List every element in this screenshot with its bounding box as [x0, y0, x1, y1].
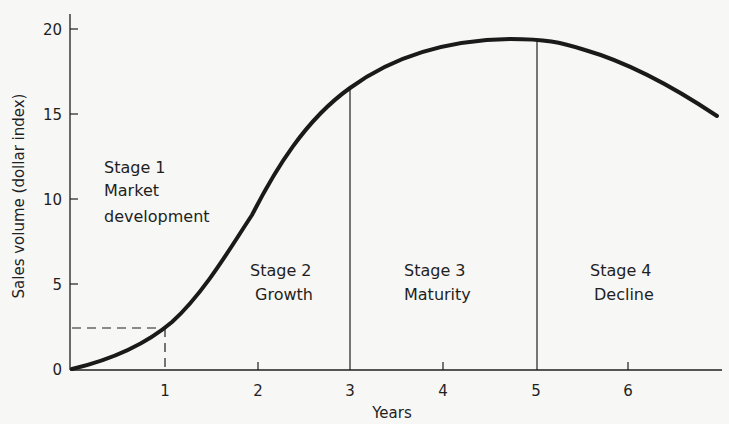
x-axis-title: Years: [371, 404, 412, 422]
svg-text:Stage 2: Stage 2: [250, 261, 312, 280]
x-tick-label: 6: [623, 382, 633, 400]
svg-text:Growth: Growth: [255, 285, 313, 304]
svg-text:Stage 4: Stage 4: [590, 261, 652, 280]
y-tick-label: 10: [43, 191, 62, 209]
svg-text:Maturity: Maturity: [404, 285, 471, 304]
x-tick-label: 5: [531, 382, 541, 400]
x-tick-label: 1: [160, 382, 170, 400]
svg-text:Stage 1: Stage 1: [104, 158, 166, 177]
y-axis-ticks: 0 5 10 15 20: [43, 21, 78, 379]
y-tick-label: 15: [43, 106, 62, 124]
stage-1-annotation: Stage 1 Market development: [104, 158, 210, 226]
product-life-cycle-chart: 0 5 10 15 20 1 2 3 4 5 6 Years Sales vol…: [0, 0, 729, 424]
y-axis-title: Sales volume (dollar index): [10, 94, 28, 299]
x-tick-label: 3: [345, 382, 355, 400]
y-tick-label: 20: [43, 21, 62, 39]
chart-canvas: 0 5 10 15 20 1 2 3 4 5 6 Years Sales vol…: [0, 0, 729, 424]
x-tick-label: 2: [253, 382, 263, 400]
y-tick-label: 5: [52, 276, 62, 294]
sales-curve: [72, 39, 717, 369]
x-tick-label: 4: [438, 382, 448, 400]
x-axis-ticks: 1 2 3 4 5 6: [160, 362, 633, 400]
svg-text:Stage 3: Stage 3: [404, 261, 466, 280]
stage-2-annotation: Stage 2 Growth: [250, 261, 313, 304]
stage-3-annotation: Stage 3 Maturity: [404, 261, 471, 304]
stage-4-annotation: Stage 4 Decline: [590, 261, 654, 304]
svg-text:development: development: [104, 207, 210, 226]
svg-text:Market: Market: [104, 181, 159, 200]
svg-text:Decline: Decline: [594, 285, 654, 304]
y-tick-label: 0: [52, 361, 62, 379]
